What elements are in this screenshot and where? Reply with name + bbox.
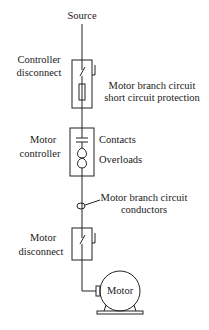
controller-disconnect-label-line2: disconnect: [10, 67, 68, 79]
conductors-label-line2: conductors: [96, 204, 192, 216]
overloads-label: Overloads: [99, 154, 142, 166]
controller-disconnect-label-line1: Controller: [10, 54, 68, 66]
motor-disconnect-label-line1: Motor: [20, 232, 66, 244]
conductors-label-line1: Motor branch circuit: [96, 192, 192, 204]
motor-label: Motor: [100, 285, 140, 297]
contacts-label: Contacts: [99, 134, 136, 146]
short-circuit-protection-label-line2: short circuit protection: [100, 92, 204, 104]
conductor-marker-icon: [77, 203, 85, 209]
motor-disconnect-label-line2: disconnect: [14, 246, 68, 258]
short-circuit-protection-label-line1: Motor branch circuit: [100, 80, 204, 92]
motor-controller-label-line1: Motor: [20, 134, 66, 146]
motor-base-icon: [97, 311, 143, 314]
motor-controller-label-line2: controller: [14, 148, 66, 160]
source-label: Source: [62, 10, 102, 22]
overload-coil-icon: [78, 148, 87, 168]
